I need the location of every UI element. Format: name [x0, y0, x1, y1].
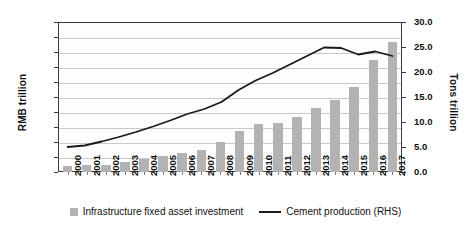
y-axis-right-tick-label: 15.0	[414, 91, 454, 102]
y-axis-right-tick-label: 30.0	[414, 16, 454, 27]
y-axis-right-tickmark	[402, 47, 406, 48]
gridline	[59, 143, 401, 144]
x-axis-tickmark	[68, 172, 69, 175]
y-axis-left-tickmark	[54, 157, 58, 158]
x-axis-tickmark	[297, 172, 298, 175]
plot-area	[58, 22, 402, 172]
y-axis-left-tickmark	[54, 112, 58, 113]
x-axis-tickmark	[259, 172, 260, 175]
y-axis-right-tickmark	[402, 72, 406, 73]
x-axis-tick-label: 2016	[377, 155, 388, 176]
x-axis-tick-label: 2010	[263, 155, 274, 176]
y-axis-left-tickmark	[54, 172, 58, 173]
y-axis-left-tickmark	[54, 22, 58, 23]
y-axis-left-tickmark	[54, 142, 58, 143]
x-axis-tick-label: 2004	[148, 155, 159, 176]
y-axis-right-tick-label: 0.0	[414, 166, 454, 177]
y-axis-right-tick-label: 10.0	[414, 116, 454, 127]
x-axis-tickmark	[125, 172, 126, 175]
y-axis-left-tickmark	[54, 97, 58, 98]
x-axis-tickmark	[278, 172, 279, 175]
gridline	[59, 68, 401, 69]
x-axis-tickmark	[354, 172, 355, 175]
x-axis-tick-label: 2005	[167, 155, 178, 176]
x-axis-tick-label: 2012	[301, 155, 312, 176]
x-axis-tickmark	[335, 172, 336, 175]
x-axis-tickmark	[373, 172, 374, 175]
x-axis-tick-label: 2017	[396, 155, 407, 176]
y-axis-right-tick-label: 25.0	[414, 41, 454, 52]
y-axis-right-tickmark	[402, 22, 406, 23]
x-axis-tickmark	[163, 172, 164, 175]
x-axis-tick-label: 2014	[339, 155, 350, 176]
gridline	[59, 83, 401, 84]
chart-legend: Infrastructure fixed asset investment Ce…	[0, 206, 471, 217]
legend-item-label: Cement production (RHS)	[286, 206, 401, 217]
x-axis-tickmark	[240, 172, 241, 175]
y-axis-right-tickmark	[402, 122, 406, 123]
x-axis-tickmark	[220, 172, 221, 175]
x-axis-tick-label: 2001	[91, 155, 102, 176]
x-axis-tick-label: 2015	[358, 155, 369, 176]
y-axis-right-tickmark	[402, 97, 406, 98]
x-axis-tick-label: 2007	[205, 155, 216, 176]
x-axis-tick-label: 2009	[244, 155, 255, 176]
chart-container: RMB trillion Tons trillion 0.02.04.06.08…	[0, 0, 471, 230]
x-axis-tickmark	[87, 172, 88, 175]
x-axis-tickmark	[106, 172, 107, 175]
x-axis-tickmark	[144, 172, 145, 175]
y-axis-left-tickmark	[54, 37, 58, 38]
legend-item-label: Infrastructure fixed asset investment	[83, 206, 244, 217]
y-axis-left-tickmark	[54, 67, 58, 68]
x-axis-tick-label: 2003	[129, 155, 140, 176]
y-axis-left-tickmark	[54, 52, 58, 53]
line-swatch-icon	[259, 211, 281, 213]
x-axis-tickmark	[182, 172, 183, 175]
x-axis-tick-label: 2013	[320, 155, 331, 176]
legend-item-cement[interactable]: Cement production (RHS)	[259, 206, 401, 217]
gridline	[59, 53, 401, 54]
y-axis-left-tickmark	[54, 127, 58, 128]
x-axis-tick-label: 2011	[282, 155, 293, 176]
gridline	[59, 128, 401, 129]
y-axis-left-tickmark	[54, 82, 58, 83]
x-axis-tick-label: 2008	[224, 155, 235, 176]
y-axis-title-left: RMB trillion	[17, 48, 28, 158]
x-axis-tick-label: 2002	[110, 155, 121, 176]
x-axis-tickmark	[316, 172, 317, 175]
x-axis-tick-label: 2006	[186, 155, 197, 176]
legend-item-infrastructure[interactable]: Infrastructure fixed asset investment	[70, 206, 244, 217]
gridline	[59, 38, 401, 39]
x-axis-tickmark	[201, 172, 202, 175]
gridline	[59, 98, 401, 99]
x-axis-tickmark	[392, 172, 393, 175]
y-axis-right-tick-label: 20.0	[414, 66, 454, 77]
y-axis-right-tick-label: 5.0	[414, 141, 454, 152]
y-axis-right-tickmark	[402, 147, 406, 148]
x-axis-tick-label: 2000	[72, 155, 83, 176]
gridline	[59, 113, 401, 114]
bar-swatch-icon	[70, 208, 78, 216]
